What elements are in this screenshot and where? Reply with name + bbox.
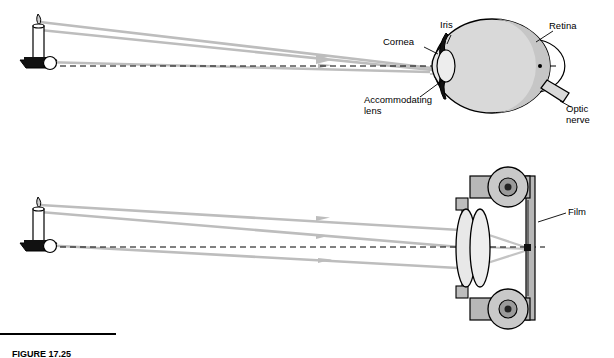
- label-iris: Iris: [440, 19, 453, 30]
- figure-caption: FIGURE 17.25: [2, 338, 71, 358]
- film-leader-line: [538, 213, 566, 222]
- camera-light-rays: [40, 205, 460, 268]
- label-accommodating-lens: Accommodating lens: [364, 94, 432, 116]
- label-film: Film: [568, 206, 586, 217]
- figure-caption-label: FIGURE 17.25: [12, 349, 71, 358]
- figure-canvas: Cornea Iris Retina Accommodating lens Op…: [0, 0, 614, 358]
- eye-light-rays: [40, 22, 432, 72]
- eyeball: [432, 19, 569, 113]
- diagram-svg: [0, 0, 614, 358]
- label-retina: Retina: [549, 20, 576, 31]
- label-optic-nerve: Optic nerve: [566, 103, 590, 125]
- camera-panel: [0, 167, 566, 334]
- eye-panel: [20, 14, 571, 113]
- label-cornea: Cornea: [383, 36, 414, 47]
